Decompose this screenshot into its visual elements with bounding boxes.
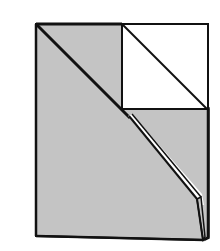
folding-diagram [0,0,220,251]
